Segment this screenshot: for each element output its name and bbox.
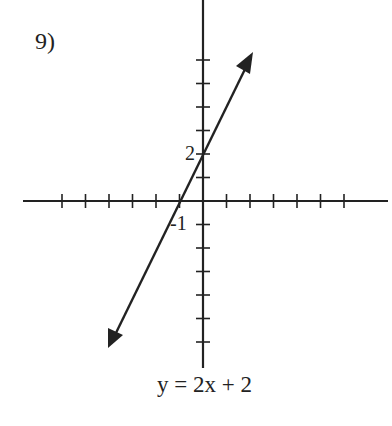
x-intercept-label: -1 bbox=[170, 213, 187, 233]
y-intercept-label: 2 bbox=[185, 143, 195, 163]
arrowhead-up-icon bbox=[236, 52, 253, 74]
arrowhead-down-icon bbox=[108, 328, 123, 348]
equation-caption: y = 2x + 2 bbox=[157, 372, 252, 398]
coordinate-plane bbox=[0, 0, 392, 426]
